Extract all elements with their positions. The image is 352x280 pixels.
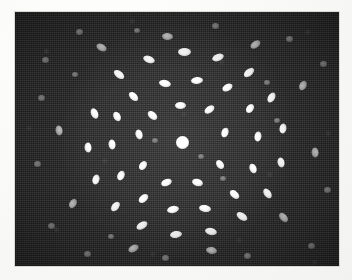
diffraction-micrograph [15, 12, 339, 266]
film-grain-texture [15, 12, 339, 266]
screenshot-root [0, 0, 352, 280]
